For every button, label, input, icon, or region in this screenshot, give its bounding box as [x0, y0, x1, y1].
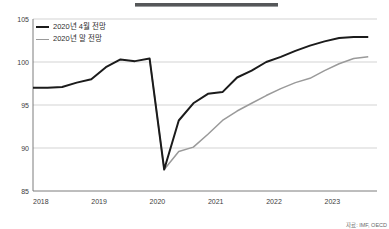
- y-axis-tick-label: 90: [21, 145, 29, 152]
- y-axis-tick-label: 95: [21, 102, 29, 109]
- series-line: [33, 37, 368, 169]
- x-axis-tick-label: 2018: [33, 198, 49, 205]
- legend-item-label: 2020년 4월 전망: [53, 22, 106, 32]
- chart-figure: 859095100105201820192020202120222023 202…: [0, 0, 389, 229]
- x-axis-tick-label: 2019: [91, 198, 107, 205]
- chart-legend: 2020년 4월 전망 2020년 말 전망: [36, 22, 106, 44]
- legend-line-swatch-dark: [36, 26, 49, 28]
- series-line: [150, 57, 369, 170]
- y-axis-tick-label: 85: [21, 188, 29, 195]
- legend-item[interactable]: 2020년 말 전망: [36, 34, 106, 44]
- legend-item[interactable]: 2020년 4월 전망: [36, 22, 106, 32]
- y-axis-tick-label: 100: [17, 59, 29, 66]
- source-note: 자료: IMF, OECD: [346, 221, 387, 229]
- legend-line-swatch-gray: [36, 39, 49, 40]
- x-axis-tick-label: 2021: [208, 198, 224, 205]
- x-axis-tick-label: 2023: [325, 198, 341, 205]
- legend-item-label: 2020년 말 전망: [53, 34, 102, 44]
- x-axis-tick-label: 2022: [266, 198, 282, 205]
- x-axis-tick-label: 2020: [150, 198, 166, 205]
- y-axis-tick-label: 105: [17, 16, 29, 23]
